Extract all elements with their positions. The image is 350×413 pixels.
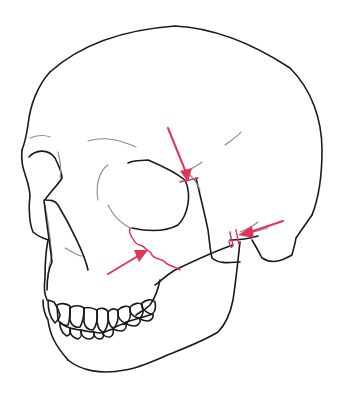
maxilla-detail: [65, 248, 82, 256]
forehead-outline: [22, 72, 50, 150]
brow-ridge-line: [30, 136, 50, 138]
orbit-rim-upper: [97, 165, 108, 200]
skull-illustration: [0, 0, 350, 413]
arrow-zygomaticomaxillary: [108, 250, 148, 274]
cranium-outline: [50, 26, 322, 215]
mandible-chin: [43, 300, 68, 360]
mandibular-ramus: [68, 242, 240, 372]
zygomatic-arch-upper: [230, 236, 258, 240]
skull-drawing: [0, 0, 350, 413]
maxilla-lower-right: [136, 280, 160, 315]
zygomatic-arch-lower: [155, 245, 233, 285]
fracture-line-infraorbital: [130, 228, 180, 270]
nasal-aperture: [29, 151, 88, 270]
upper-teeth: [48, 300, 155, 332]
frontal-process-detail-2: [190, 175, 200, 190]
left-orbit-outline: [22, 150, 50, 240]
temporal-line-2: [225, 132, 241, 145]
fracture-line-arch-2: [236, 230, 239, 244]
orbit-rim-lower: [108, 205, 130, 228]
right-orbit-outline: [128, 160, 189, 231]
arrow-frontozygomatic: [168, 128, 192, 182]
temporal-line: [88, 139, 136, 147]
maxilla-outline: [44, 240, 48, 300]
